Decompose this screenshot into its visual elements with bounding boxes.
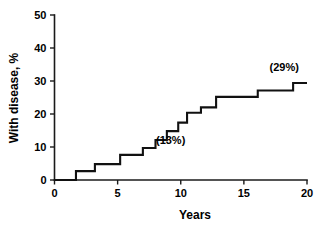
y-tick-label: 20 <box>34 108 46 120</box>
chart-annotations: (13%)(29%) <box>156 61 299 146</box>
disease-step-curve <box>55 83 308 180</box>
x-tick-label: 5 <box>115 187 121 199</box>
x-tick-label: 15 <box>238 187 250 199</box>
chart-annotation-label: (29%) <box>270 61 300 73</box>
y-tick-label: 50 <box>34 9 46 21</box>
y-axis-title: With disease, % <box>7 52 21 143</box>
y-tick-label: 40 <box>34 42 46 54</box>
x-axis-title: Years <box>179 208 211 222</box>
x-tick-label: 0 <box>51 187 57 199</box>
y-tick-label: 10 <box>34 141 46 153</box>
y-tick-label: 0 <box>40 174 46 186</box>
x-tick-label: 20 <box>301 187 313 199</box>
y-tick-label: 30 <box>34 75 46 87</box>
y-axis-tick-labels: 01020304050 <box>34 9 46 186</box>
cumulative-incidence-chart: 01020304050 05101520 (13%)(29%) With dis… <box>0 0 335 229</box>
chart-annotation-label: (13%) <box>156 134 186 146</box>
chart-container: 01020304050 05101520 (13%)(29%) With dis… <box>0 0 335 229</box>
x-axis-tick-labels: 05101520 <box>51 187 313 199</box>
x-tick-label: 10 <box>175 187 187 199</box>
